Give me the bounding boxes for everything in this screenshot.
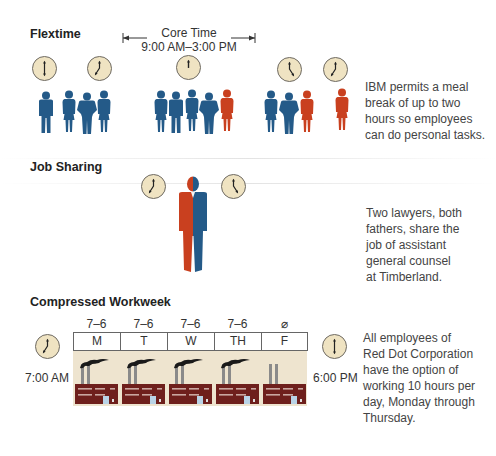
factory-icon-active bbox=[122, 358, 165, 404]
day-m: M bbox=[73, 332, 121, 351]
person-blue bbox=[61, 90, 77, 137]
person-blue bbox=[198, 92, 220, 139]
clock-icon-7 bbox=[141, 174, 166, 199]
factory-icon-active bbox=[169, 358, 212, 404]
day-th: TH bbox=[214, 332, 262, 351]
factory-icon-active bbox=[75, 358, 118, 404]
person-blue bbox=[278, 92, 300, 139]
job-sharing-split-person bbox=[178, 176, 208, 278]
person-blue bbox=[167, 91, 185, 138]
clock-icon-6pm bbox=[322, 334, 347, 359]
job-sharing-description: Two lawyers, both fathers, share the job… bbox=[366, 205, 496, 285]
end-time-label: 6:00 PM bbox=[313, 371, 358, 385]
day-hours-f-none: ⌀ bbox=[261, 317, 307, 331]
person-blue bbox=[96, 90, 112, 137]
start-time-label: 7:00 AM bbox=[25, 371, 69, 385]
compressed-workweek-title: Compressed Workweek bbox=[30, 295, 171, 309]
day-t: T bbox=[120, 332, 168, 351]
clock-icon-7am bbox=[87, 56, 112, 81]
person-red bbox=[334, 88, 350, 135]
clock-icon-5pm bbox=[277, 57, 302, 82]
divider bbox=[0, 183, 496, 184]
clock-icon-7am bbox=[35, 334, 60, 359]
compressed-workweek-description: All employees of Red Dot Corporation hav… bbox=[363, 330, 496, 426]
day-w: W bbox=[167, 332, 215, 351]
factory-icon-idle bbox=[263, 358, 306, 404]
day-hours-t: 7–6 bbox=[120, 317, 167, 331]
job-sharing-title: Job Sharing bbox=[30, 160, 102, 174]
divider bbox=[0, 158, 496, 159]
day-hours-m: 7–6 bbox=[73, 317, 120, 331]
core-time-label: Core Time bbox=[130, 26, 248, 40]
person-blue bbox=[263, 90, 279, 137]
clock-icon-5 bbox=[221, 174, 246, 199]
flextime-title: Flextime bbox=[30, 27, 81, 41]
core-time-range: 9:00 AM–3:00 PM bbox=[130, 40, 248, 54]
person-blue bbox=[76, 92, 98, 139]
clock-icon-7pm bbox=[323, 57, 348, 82]
person-red bbox=[219, 89, 235, 136]
flextime-description: IBM permits a meal break of up to two ho… bbox=[365, 79, 495, 143]
clock-icon-noon bbox=[176, 55, 201, 80]
day-hours-th: 7–6 bbox=[214, 317, 261, 331]
factory-icon-active bbox=[216, 358, 259, 404]
day-f: F bbox=[261, 332, 308, 351]
clock-icon-6am bbox=[32, 56, 57, 81]
day-hours-w: 7–6 bbox=[167, 317, 214, 331]
person-red bbox=[299, 90, 315, 137]
person-blue bbox=[37, 91, 55, 138]
